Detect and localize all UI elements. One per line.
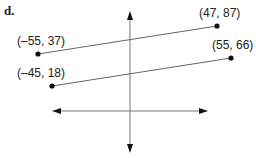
y-axis-up-arrow-icon bbox=[127, 11, 133, 20]
point-47-87 bbox=[214, 23, 219, 28]
segment-2 bbox=[52, 58, 231, 86]
point-label-55-66: (55, 66) bbox=[212, 38, 253, 52]
point-neg55-37 bbox=[35, 51, 40, 56]
point-label-neg55-37: (–55, 37) bbox=[17, 34, 65, 48]
y-axis-down-arrow-icon bbox=[127, 144, 133, 153]
point-label-47-87: (47, 87) bbox=[199, 6, 240, 20]
point-55-66 bbox=[228, 55, 233, 60]
x-axis-right-arrow-icon bbox=[199, 108, 208, 114]
point-neg45-18 bbox=[49, 83, 54, 88]
x-axis-left-arrow-icon bbox=[52, 108, 61, 114]
point-label-neg45-18: (–45, 18) bbox=[17, 66, 65, 80]
